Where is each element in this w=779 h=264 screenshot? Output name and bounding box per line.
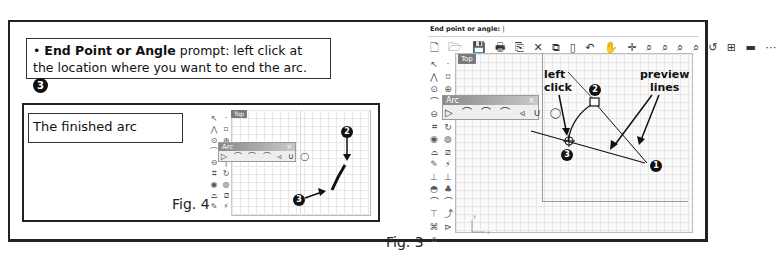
axis-icon	[472, 220, 485, 232]
svg-text:x: x	[487, 229, 490, 235]
callout-badge-3: 3	[561, 149, 573, 161]
callout-badge-1: 1	[650, 160, 662, 172]
point-2-grip	[590, 98, 599, 106]
callout-badge-2: 2	[589, 84, 601, 96]
arc-preview	[568, 103, 594, 141]
svg-text:y: y	[473, 213, 476, 220]
fig3-label: Fig. 3	[386, 234, 424, 250]
preview-line-1	[531, 131, 645, 163]
